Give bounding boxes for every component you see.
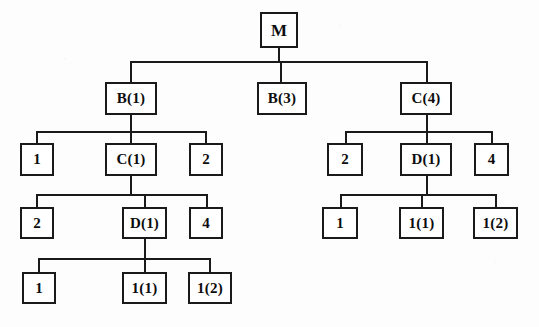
tree-node-label: D(1) xyxy=(411,152,440,167)
connector-b1-stub xyxy=(130,115,132,131)
tree-node-r4-1[interactable]: 1 xyxy=(322,207,358,239)
tree-node-label: 2 xyxy=(33,216,41,231)
tree-node-label: 4 xyxy=(488,152,496,167)
tree-node-label: 4 xyxy=(202,216,210,231)
tree-node-b3[interactable]: B(3) xyxy=(257,82,307,115)
connector-m-drop-c4 xyxy=(426,61,428,83)
connector-dr-bus xyxy=(340,194,496,196)
tree-node-m[interactable]: M xyxy=(260,12,298,48)
tree-node-l5-1[interactable]: 1 xyxy=(22,272,56,304)
connector-c1-drop-2 xyxy=(36,194,38,208)
connector-dl-stub xyxy=(144,239,146,259)
tree-node-label: 1(2) xyxy=(483,216,509,231)
connector-m-drop-b1 xyxy=(130,61,132,83)
tree-node-r4-12[interactable]: 1(2) xyxy=(473,207,518,239)
tree-node-r3-2[interactable]: 2 xyxy=(327,143,363,176)
connector-c4-stub xyxy=(426,115,428,131)
connector-dl-drop-1 xyxy=(38,258,40,273)
connector-m-stub xyxy=(278,48,280,62)
scan-noise-overlay xyxy=(0,0,539,327)
tree-node-r4-11[interactable]: 1(1) xyxy=(399,207,444,239)
tree-node-b1[interactable]: B(1) xyxy=(105,82,157,115)
tree-node-l5-11[interactable]: 1(1) xyxy=(122,272,167,304)
connector-c1-bus xyxy=(36,194,208,196)
connector-m-drop-b3 xyxy=(280,61,282,83)
connector-dr-drop-1 xyxy=(340,194,342,208)
connector-c1-drop-4 xyxy=(206,194,208,208)
tree-diagram-canvas: MB(1)B(3)C(4)1C(1)22D(1)411(1)1(2)2D(1)4… xyxy=(0,0,539,327)
tree-node-l3-2[interactable]: 2 xyxy=(189,143,223,176)
tree-node-label: 1(2) xyxy=(197,281,223,296)
tree-node-c4[interactable]: C(4) xyxy=(400,82,452,115)
connector-c4-bus xyxy=(345,131,492,133)
connector-dl-bus xyxy=(38,258,210,260)
tree-node-label: B(1) xyxy=(117,91,145,106)
tree-node-label: 1 xyxy=(336,216,344,231)
connector-dl-drop-12 xyxy=(209,258,211,273)
tree-node-label: C(1) xyxy=(116,152,145,167)
tree-node-r3-4[interactable]: 4 xyxy=(474,143,509,176)
connector-dr-drop-11 xyxy=(421,194,423,208)
connector-b1-bus xyxy=(36,131,206,133)
tree-node-label: M xyxy=(271,22,287,39)
connector-dr-drop-12 xyxy=(495,194,497,208)
connector-dr-stub xyxy=(426,176,428,195)
tree-node-l5-12[interactable]: 1(2) xyxy=(188,272,232,304)
tree-node-c1[interactable]: C(1) xyxy=(105,143,157,176)
connector-m-bus xyxy=(130,61,428,63)
tree-node-l4-2[interactable]: 2 xyxy=(20,207,54,239)
tree-node-label: 1 xyxy=(35,281,43,296)
tree-node-label: 1(1) xyxy=(132,281,158,296)
connector-c1-stub xyxy=(130,176,132,195)
tree-node-d1-left[interactable]: D(1) xyxy=(122,207,167,239)
connector-dl-drop-11 xyxy=(144,258,146,273)
tree-node-label: 1(1) xyxy=(409,216,435,231)
tree-node-l3-1[interactable]: 1 xyxy=(20,143,54,176)
tree-node-label: C(4) xyxy=(411,91,440,106)
tree-node-d1-right[interactable]: D(1) xyxy=(400,143,452,176)
tree-node-label: 2 xyxy=(202,152,210,167)
tree-node-label: D(1) xyxy=(130,216,159,231)
tree-node-label: B(3) xyxy=(268,91,296,106)
tree-node-label: 1 xyxy=(33,152,41,167)
connector-c1-drop-d1 xyxy=(144,194,146,208)
tree-node-l4-4[interactable]: 4 xyxy=(189,207,223,239)
tree-node-label: 2 xyxy=(341,152,349,167)
